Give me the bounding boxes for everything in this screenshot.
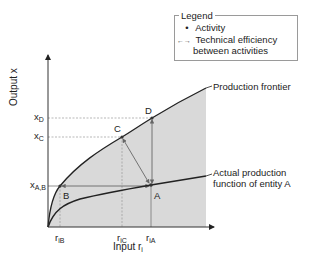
legend-item-efficiency-line2: between activities [193,45,268,56]
y-tick-xAB: xA,B [30,179,46,191]
y-tick-xC: xC [34,130,44,142]
double-arrow-icon: ←→ [177,35,193,46]
y-axis-label: Output x [8,68,19,106]
x-tick-riA: riA [146,232,155,244]
actual-label-line2: function of entity A [213,178,291,189]
point-label-a: A [154,190,160,201]
feasible-region [48,88,206,227]
x-tick-riB: riB [55,232,64,244]
point-label-c: C [114,123,121,134]
point-label-d: D [145,105,152,116]
legend-title: Legend [179,10,215,21]
point-label-b: B [63,190,69,201]
actual-label-line1: Actual production [213,167,286,178]
legend-box: Legend • Activity ←→ Technical efficienc… [174,15,298,61]
x-tick-riC: riC [117,232,127,244]
legend-item-activity: • Activity [181,22,225,33]
frontier-label: Production frontier [213,81,291,92]
activity-dot-icon: • [181,22,193,33]
y-tick-xD: xD [34,111,44,123]
